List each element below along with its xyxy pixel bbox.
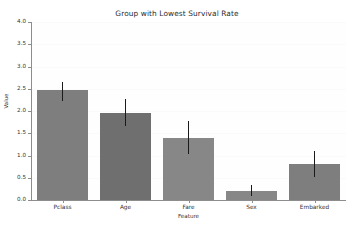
x-tick-mark	[189, 201, 190, 203]
x-tick-mark	[63, 201, 64, 203]
y-tick-label: 0.0	[0, 197, 26, 203]
y-tick-mark	[28, 22, 31, 23]
y-tick-mark	[28, 44, 31, 45]
error-bar	[62, 82, 64, 101]
x-tick-mark	[315, 201, 316, 203]
error-bar	[125, 99, 127, 125]
bar	[100, 113, 150, 200]
y-tick-mark	[28, 133, 31, 134]
y-tick-label: 4.0	[0, 19, 26, 25]
y-tick-mark	[28, 200, 31, 201]
y-tick-mark	[28, 67, 31, 68]
y-tick-label: 0.5	[0, 175, 26, 181]
bar	[37, 90, 87, 200]
error-bar	[314, 151, 316, 177]
x-tick-label: Age	[91, 204, 161, 210]
chart-title: Group with Lowest Survival Rate	[0, 9, 354, 18]
x-tick-label: Embarked	[280, 204, 350, 210]
y-tick-label: 1.0	[0, 153, 26, 159]
y-tick-mark	[28, 111, 31, 112]
x-tick-label: Pclass	[28, 204, 98, 210]
y-axis-spine	[31, 22, 32, 201]
y-tick-label: 3.0	[0, 64, 26, 70]
y-tick-label: 1.5	[0, 130, 26, 136]
chart-figure: Group with Lowest Survival Rate 0.00.51.…	[0, 0, 354, 229]
y-tick-mark	[28, 89, 31, 90]
gridline	[31, 67, 346, 68]
x-tick-label: Fare	[154, 204, 224, 210]
gridline	[31, 44, 346, 45]
y-axis-title: Value	[3, 81, 9, 121]
error-bar	[188, 121, 190, 153]
x-axis-title: Feature	[31, 213, 346, 219]
x-tick-mark	[126, 201, 127, 203]
y-tick-label: 3.5	[0, 41, 26, 47]
x-tick-label: Sex	[217, 204, 287, 210]
x-tick-mark	[252, 201, 253, 203]
error-bar	[251, 185, 253, 195]
y-tick-mark	[28, 156, 31, 157]
gridline	[31, 22, 346, 23]
y-tick-mark	[28, 178, 31, 179]
